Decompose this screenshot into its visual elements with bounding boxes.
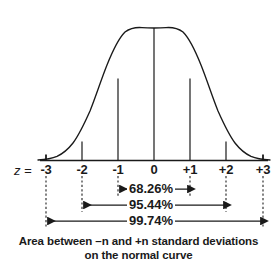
x-tick-label-zero: 0 xyxy=(139,163,169,177)
x-tick-label-plus2: +2 xyxy=(211,163,241,177)
figure-caption-line2: on the normal curve xyxy=(0,248,277,262)
figure-caption-line1: Area between –n and +n standard deviatio… xyxy=(0,234,277,248)
figure-caption: Area between –n and +n standard deviatio… xyxy=(0,234,277,262)
normal-curve-figure: z = -3 -2 -1 0 +1 +2 +3 68.26% 95.44% 99… xyxy=(0,0,277,263)
x-tick-label-plus3: +3 xyxy=(248,163,277,177)
band-label-68: 68.26% xyxy=(127,182,175,195)
x-tick-label-minus3: -3 xyxy=(31,163,61,177)
x-tick-label-minus2: -2 xyxy=(67,163,97,177)
x-tick-label-minus1: -1 xyxy=(103,163,133,177)
band-label-99: 99.74% xyxy=(127,214,175,227)
z-axis-prefix-label: z = xyxy=(14,163,32,178)
x-tick-label-plus1: +1 xyxy=(175,163,205,177)
band-label-95: 95.44% xyxy=(127,198,175,211)
